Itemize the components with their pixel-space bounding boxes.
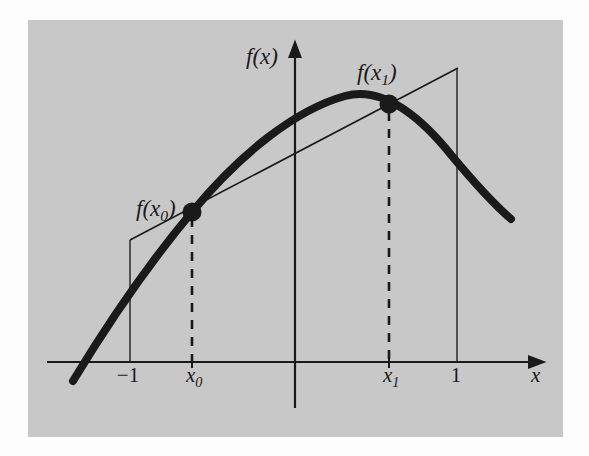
tick-label-one: 1	[451, 363, 462, 387]
tick-label-one-text: 1	[451, 363, 462, 387]
point-x0-dot	[183, 203, 202, 222]
point-x1-label-close: )	[387, 60, 397, 85]
tick-label-x1-subscript: 1	[392, 374, 399, 390]
point-x1-label-subscript: 1	[381, 71, 389, 88]
tick-label-minus-one: −1	[117, 363, 139, 387]
point-x0-label-subscript: 0	[160, 207, 168, 224]
point-x0-label-close: )	[166, 196, 176, 221]
point-x1-label: f(x1)	[357, 60, 397, 88]
figure-canvas: f(x) x f(x0) f(x1) −1 x0 x1 1	[0, 0, 589, 456]
tick-label-x0-subscript: 0	[195, 374, 202, 390]
y-axis-label-text: f(x)	[246, 44, 278, 69]
tick-label-minus-one-text: −1	[117, 363, 139, 387]
x-axis-label-text: x	[530, 363, 541, 387]
point-x0-label-main: f(x	[136, 196, 161, 221]
point-x0-label: f(x0)	[136, 196, 176, 224]
y-axis-label: f(x)	[246, 44, 278, 69]
figure-root: f(x) x f(x0) f(x1) −1 x0 x1 1	[0, 0, 589, 456]
x-axis-label: x	[530, 363, 541, 387]
point-x1-label-main: f(x	[357, 60, 382, 85]
point-x1-dot	[380, 95, 399, 114]
